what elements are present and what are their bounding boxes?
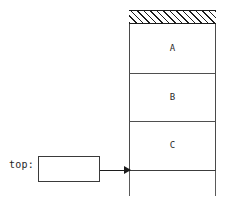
stack-cell-label-a: A [129,44,216,53]
stack-wall-right-extension [215,171,216,196]
stack-cell-label-c: C [129,141,216,150]
stack-wall-left-extension [129,171,130,196]
top-pointer-box [38,156,100,182]
hatched-region [129,10,216,24]
stack-diagram-canvas: A B C top: [0,0,228,212]
top-pointer-label: top: [9,160,34,170]
cell-divider-b-c [129,121,216,122]
cell-divider-a-b [129,73,216,74]
stack-cell-label-b: B [129,93,216,102]
cell-divider-top-pointer [129,170,216,171]
arrow-right-icon [124,166,131,174]
